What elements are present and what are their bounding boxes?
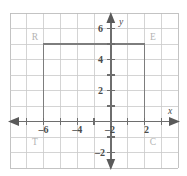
x-tick-label-neg4: –4 bbox=[71, 124, 82, 135]
y-axis-up-arrow bbox=[106, 12, 115, 23]
x-tick-label-2: 2 bbox=[144, 124, 149, 135]
x-tick-label-neg2: –2 bbox=[104, 124, 115, 135]
vertex-label-t: T bbox=[32, 137, 38, 147]
vertex-label-c: C bbox=[150, 137, 156, 147]
y-tick-label-2: 2 bbox=[98, 85, 103, 96]
vertex-label-e: E bbox=[150, 32, 156, 42]
y-axis-name-label: y bbox=[118, 17, 124, 27]
y-tick-label-neg2: –2 bbox=[94, 147, 105, 158]
x-axis-name-label: x bbox=[167, 106, 173, 116]
coordinate-plane-figure: –6 –4 –2 2 6 4 2 –2 y x R E C T bbox=[0, 0, 187, 176]
x-axis bbox=[8, 117, 180, 126]
x-tick-label-neg6: –6 bbox=[38, 124, 49, 135]
y-tick-label-4: 4 bbox=[98, 54, 103, 65]
coordinate-plane-svg: –6 –4 –2 2 6 4 2 –2 y x R E C T bbox=[0, 0, 187, 176]
y-tick-label-6: 6 bbox=[98, 23, 103, 34]
vertex-label-r: R bbox=[32, 32, 39, 42]
y-axis bbox=[106, 12, 115, 170]
